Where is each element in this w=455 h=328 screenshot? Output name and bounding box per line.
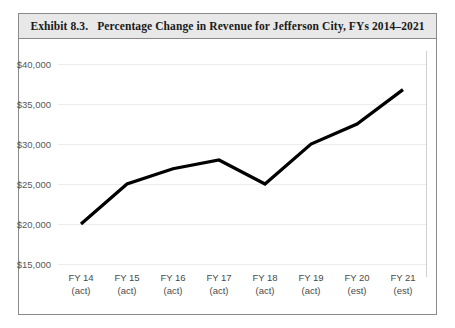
y-axis-tick-label: $15,000 (17, 259, 51, 270)
x-axis-tick-year: FY 21 (390, 272, 415, 283)
x-axis-tick-basis: (est) (334, 285, 380, 298)
y-axis-tick-label: $25,000 (17, 179, 51, 190)
gridline (58, 264, 426, 265)
x-axis-tick-label: FY 14(act) (58, 272, 104, 297)
exhibit-title: Exhibit 8.3.Percentage Change in Revenue… (30, 20, 424, 32)
x-axis-tick-basis: (act) (288, 285, 334, 298)
y-axis-tick-label: $30,000 (17, 139, 51, 150)
x-axis-tick-year: FY 14 (68, 272, 93, 283)
x-axis-tick-label: FY 20(est) (334, 272, 380, 297)
x-axis-tick-basis: (act) (58, 285, 104, 298)
x-axis-tick-year: FY 18 (252, 272, 277, 283)
x-axis-tick-year: FY 17 (206, 272, 231, 283)
x-axis-tick-basis: (act) (196, 285, 242, 298)
x-axis-tick-label: FY 16(act) (150, 272, 196, 297)
plot-area: $40,000$35,000$30,000$25,000$20,000$15,0… (58, 64, 426, 264)
x-axis-tick-label: FY 19(act) (288, 272, 334, 297)
x-axis-tick-basis: (act) (150, 285, 196, 298)
plot-right-border (426, 51, 427, 277)
y-axis-tick-label: $20,000 (17, 219, 51, 230)
exhibit-figure: Exhibit 8.3.Percentage Change in Revenue… (18, 13, 437, 315)
y-axis-tick-label: $35,000 (17, 99, 51, 110)
revenue-line-path (81, 90, 403, 224)
x-axis-tick-basis: (est) (380, 285, 426, 298)
x-axis-tick-year: FY 19 (298, 272, 323, 283)
revenue-line-series (58, 64, 426, 264)
x-axis-tick-label: FY 15(act) (104, 272, 150, 297)
x-axis: FY 14(act)FY 15(act)FY 16(act)FY 17(act)… (58, 272, 426, 297)
x-axis-tick-year: FY 15 (114, 272, 139, 283)
x-axis-tick-basis: (act) (104, 285, 150, 298)
exhibit-number-label: Exhibit 8.3. (30, 20, 88, 32)
x-axis-tick-label: FY 17(act) (196, 272, 242, 297)
exhibit-title-text: Percentage Change in Revenue for Jeffers… (97, 20, 424, 32)
chart-canvas: $40,000$35,000$30,000$25,000$20,000$15,0… (19, 39, 436, 314)
x-axis-tick-basis: (act) (242, 285, 288, 298)
exhibit-title-band: Exhibit 8.3.Percentage Change in Revenue… (19, 14, 436, 39)
x-axis-tick-year: FY 20 (344, 272, 369, 283)
x-axis-tick-label: FY 18(act) (242, 272, 288, 297)
y-axis-tick-label: $40,000 (17, 59, 51, 70)
x-axis-tick-year: FY 16 (160, 272, 185, 283)
x-axis-tick-label: FY 21(est) (380, 272, 426, 297)
